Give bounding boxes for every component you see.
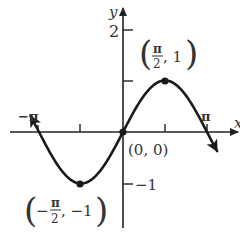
max-label-numerator: π bbox=[153, 42, 162, 56]
max-point bbox=[161, 77, 168, 84]
min-point bbox=[76, 180, 83, 187]
x-axis-label: x bbox=[234, 114, 240, 132]
min-point-label: ( − π 2 , −1 ) bbox=[24, 190, 108, 230]
min-label-close-paren: ) bbox=[95, 190, 108, 230]
max-label-close-paren: ) bbox=[185, 33, 198, 73]
min-label-denominator: 2 bbox=[51, 212, 59, 226]
x-tick-label-pi: π bbox=[201, 109, 211, 124]
y-ticks bbox=[123, 30, 133, 184]
y-tick-label-neg-1: −1 bbox=[135, 176, 157, 194]
max-label-open-paren: ( bbox=[139, 33, 152, 73]
x-tick-label-neg-pi: −π bbox=[18, 109, 39, 124]
max-label-denominator: 2 bbox=[153, 57, 161, 71]
y-axis-label: y bbox=[108, 3, 118, 21]
min-label-rest: , −1 bbox=[61, 202, 93, 220]
max-label-rest: , 1 bbox=[163, 48, 182, 66]
origin-label: (0, 0) bbox=[128, 141, 168, 159]
min-label-numerator: π bbox=[51, 196, 60, 210]
origin-point bbox=[119, 128, 126, 135]
sine-graph: y x 2 −1 −π π (0, 0) ( π 2 , 1 ) ( − π 2… bbox=[0, 0, 240, 246]
y-tick-label-2: 2 bbox=[109, 22, 119, 41]
min-label-sign: − bbox=[36, 202, 49, 220]
max-point-label: ( π 2 , 1 ) bbox=[139, 33, 198, 73]
